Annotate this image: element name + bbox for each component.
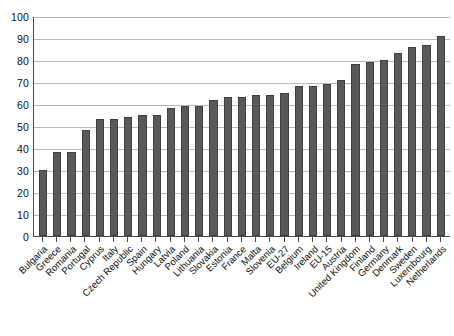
bar [323,84,331,236]
bar [394,53,402,236]
plot-area [33,17,450,237]
bar [39,170,47,236]
bar-slot [419,17,433,236]
bar-slot [79,17,93,236]
bar-slot [249,17,263,236]
bar [238,97,246,236]
bar [110,119,118,236]
bar-slot [377,17,391,236]
x-axis-labels: BulgariaGreeceRomaniaPortugalCyprusItaly… [33,242,450,336]
bar-slot [292,17,306,236]
y-tick-label-100: 100 [11,11,29,23]
y-tick-label-90: 90 [17,33,29,45]
y-tick-label-10: 10 [17,209,29,221]
bar-slot [192,17,206,236]
bar-slot [107,17,121,236]
bar-slot [235,17,249,236]
x-label-slot: Netherlands [434,242,448,336]
bar-slot [434,17,448,236]
bar [309,86,317,236]
bar [295,86,303,236]
bar-slot [405,17,419,236]
bar-slot [135,17,149,236]
bar [209,100,217,236]
bar-slot [36,17,50,236]
y-tick-label-30: 30 [17,165,29,177]
bar [408,47,416,236]
bar-slot [178,17,192,236]
bar-slot [64,17,78,236]
bar [181,106,189,236]
bar-slot [221,17,235,236]
bar-slot [320,17,334,236]
bar [153,115,161,236]
bar [138,115,146,236]
bar [82,130,90,236]
y-tick-label-60: 60 [17,99,29,111]
bar-slot [263,17,277,236]
bar [195,106,203,236]
bar [53,152,61,236]
bar-chart: 1009080706050403020100 BulgariaGreeceRom… [0,0,454,336]
bar-slot [150,17,164,236]
bar [67,152,75,236]
bar [252,95,260,236]
bar [380,60,388,236]
bar [422,45,430,236]
bar-slot [93,17,107,236]
bar [351,64,359,236]
y-tick-label-70: 70 [17,77,29,89]
y-tick-label-20: 20 [17,187,29,199]
bar [337,80,345,236]
bar [280,93,288,236]
bar-slot [334,17,348,236]
bar-series [34,17,450,236]
bar [437,36,445,236]
bar-slot [391,17,405,236]
bar [266,95,274,236]
bar-slot [363,17,377,236]
bar-slot [50,17,64,236]
bar-slot [306,17,320,236]
bar-slot [121,17,135,236]
bar [124,117,132,236]
bar-slot [277,17,291,236]
bar [224,97,232,236]
bar [366,62,374,236]
bar-slot [206,17,220,236]
bar-slot [348,17,362,236]
bar [96,119,104,236]
y-tick-label-50: 50 [17,121,29,133]
y-tick-label-40: 40 [17,143,29,155]
y-tick-label-80: 80 [17,55,29,67]
y-tick-label-0: 0 [23,231,29,243]
bar-slot [164,17,178,236]
y-axis: 1009080706050403020100 [0,0,33,237]
bar [167,108,175,236]
